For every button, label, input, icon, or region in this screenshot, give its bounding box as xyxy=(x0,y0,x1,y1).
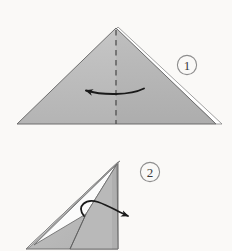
step-2-badge: 2 xyxy=(140,162,159,181)
step-1-badge: 1 xyxy=(177,55,196,74)
step-2-group: 2 xyxy=(26,161,160,249)
step-2-right-edge-shade xyxy=(112,162,118,249)
step-1-badge-label: 1 xyxy=(184,58,191,73)
step-2-badge-label: 2 xyxy=(147,165,154,180)
step-1-right-half-shade xyxy=(116,28,216,124)
origami-diagram-canvas: 1 2 xyxy=(0,0,232,251)
step-1-group: 1 xyxy=(17,27,222,124)
origami-instruction-diagram: 1 2 xyxy=(0,0,232,251)
